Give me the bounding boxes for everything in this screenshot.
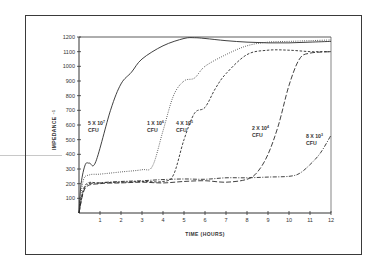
y-tick-label: 1100 (63, 49, 75, 55)
y-tick-label: 800 (66, 93, 75, 99)
svg-text:CFU: CFU (176, 127, 187, 133)
svg-text:8 X 103: 8 X 103 (306, 133, 323, 139)
plot-axes (79, 37, 331, 213)
series-line-3 (79, 50, 331, 213)
y-tick-label: 200 (66, 181, 75, 187)
svg-text:2 X 104: 2 X 104 (252, 125, 269, 131)
svg-text:CFU: CFU (88, 127, 99, 133)
series-line-4 (79, 52, 331, 213)
svg-text:CFU: CFU (147, 127, 158, 133)
svg-text:4 X 105: 4 X 105 (176, 120, 193, 126)
y-tick-label: 1000 (63, 63, 75, 69)
series-lines (79, 38, 331, 213)
svg-text:CFU: CFU (306, 140, 317, 146)
y-tick-label: 1200 (63, 34, 75, 40)
series-label-5e7: 5 X 107 CFU (88, 120, 105, 133)
y-axis-ticks: 100200300400500600700800900100011001200 (63, 34, 81, 201)
x-tick-label: 3 (140, 217, 143, 223)
series-label-1e6: 1 X 106 CFU (147, 120, 164, 133)
series-label-2e4: 2 X 104 CFU (252, 125, 269, 138)
impedance-chart: 100200300400500600700800900100011001200 … (0, 0, 385, 268)
series-line-2 (79, 40, 331, 213)
y-tick-label: 100 (66, 195, 75, 201)
x-tick-label: 2 (119, 217, 122, 223)
y-tick-label: 700 (66, 107, 75, 113)
series-line-1 (79, 38, 331, 213)
y-tick-label: 300 (66, 166, 75, 172)
x-tick-label: 7 (224, 217, 227, 223)
series-line-5 (79, 135, 331, 213)
svg-text:CFU: CFU (252, 132, 263, 138)
series-label-8e3: 8 X 103 CFU (306, 133, 323, 146)
x-tick-label: 9 (266, 217, 269, 223)
x-tick-label: 1 (98, 217, 101, 223)
x-tick-label: 6 (203, 217, 206, 223)
y-axis-title: IMPEDANCE−1 (51, 110, 57, 150)
series-label-4e5: 4 X 105 CFU (176, 120, 193, 133)
svg-text:1 X 106: 1 X 106 (147, 120, 164, 126)
x-tick-label: 8 (245, 217, 248, 223)
y-tick-label: 400 (66, 151, 75, 157)
y-tick-label: 600 (66, 122, 75, 128)
x-tick-label: 11 (307, 217, 313, 223)
y-tick-label: 500 (66, 137, 75, 143)
x-tick-label: 4 (161, 217, 164, 223)
x-tick-label: 10 (286, 217, 292, 223)
x-axis-title: TIME (HOURS) (185, 231, 225, 237)
x-tick-label: 5 (182, 217, 185, 223)
x-tick-label: 12 (328, 217, 334, 223)
svg-text:5 X 107: 5 X 107 (88, 120, 105, 126)
y-tick-label: 900 (66, 78, 75, 84)
